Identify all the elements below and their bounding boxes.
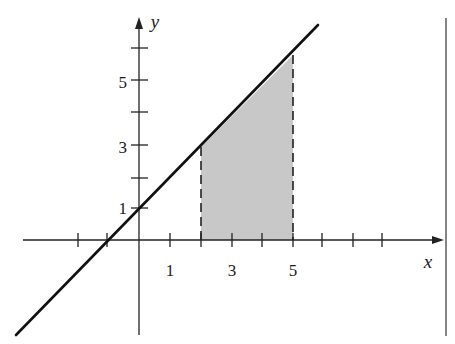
y-axis-arrow-icon bbox=[135, 17, 143, 29]
y-tick-label-1: 1 bbox=[119, 199, 128, 218]
y-tick-label-3: 3 bbox=[119, 138, 128, 157]
x-axis-label: x bbox=[423, 251, 433, 272]
shaded-area bbox=[201, 55, 293, 240]
x-tick-label-3: 3 bbox=[228, 261, 237, 280]
x-tick-label-5: 5 bbox=[289, 261, 298, 280]
x-tick-label-1: 1 bbox=[166, 261, 175, 280]
x-axis-arrow-icon bbox=[432, 236, 444, 244]
y-tick-label-5: 5 bbox=[119, 73, 128, 92]
integral-diagram: 1 3 5 1 3 5 x y bbox=[0, 0, 455, 344]
y-axis-label: y bbox=[149, 11, 160, 32]
